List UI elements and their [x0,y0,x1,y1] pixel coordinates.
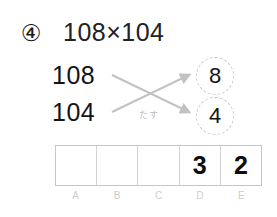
answer-grid: 3 2 [55,145,262,186]
answer-cell-b[interactable] [97,146,138,185]
grid-label-a: A [55,189,96,202]
answer-cell-a[interactable] [56,146,97,185]
problem-expression: 108×104 [63,17,165,47]
grid-label-e: E [221,189,262,202]
upper-result-bubble: 8 [196,57,234,95]
answer-cell-d[interactable]: 3 [180,146,221,185]
lower-result-bubble: 4 [196,97,234,135]
arrow-top-to-lower [112,75,189,112]
answer-cell-e[interactable]: 2 [221,146,261,185]
worksheet-page: ④ 108×104 108 104 たす 8 4 3 2 A B C D E [0,0,277,217]
operand-bottom: 104 [52,98,95,126]
answer-cell-c[interactable] [138,146,179,185]
cross-operation-label: たす [139,110,159,121]
arrow-bottom-to-upper [112,75,189,112]
grid-label-c: C [138,189,179,202]
grid-label-d: D [179,189,220,202]
problem-number-badge: ④ [17,19,45,47]
answer-grid-labels: A B C D E [55,189,262,202]
grid-label-b: B [96,189,137,202]
operand-top: 108 [52,61,95,89]
